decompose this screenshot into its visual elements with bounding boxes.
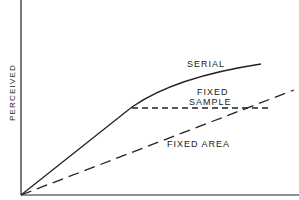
plot-area: [0, 0, 299, 200]
fixed-sample-label-line1: FIXED: [197, 87, 229, 97]
serial-line: [21, 64, 261, 195]
chart: SERIAL FIXED SAMPLE FIXED AREA PERCEIVED: [0, 0, 299, 200]
fixed-sample-label-line2: SAMPLE: [189, 97, 232, 107]
fixed-area-line: [21, 90, 294, 195]
fixed-area-label: FIXED AREA: [167, 139, 230, 149]
y-axis-label: PERCEIVED: [8, 64, 17, 121]
serial-label: SERIAL: [187, 59, 225, 69]
